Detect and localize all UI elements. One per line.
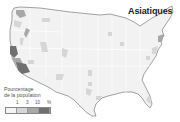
map-title: Asiatiques	[128, 6, 173, 16]
legend-swatch-gt10	[39, 108, 50, 113]
legend-tick-3: 3	[26, 100, 29, 105]
legend-swatch-3-10	[28, 108, 39, 113]
legend-title-line2: de la population	[4, 92, 41, 98]
legend-tick-10: 10	[35, 100, 40, 105]
legend-swatch-lt1	[6, 108, 17, 113]
legend-tick-percent: %	[47, 100, 51, 105]
legend-title: Pourcentage de la population	[4, 86, 41, 98]
legend-swatch-1-3	[17, 108, 28, 113]
legend-color-scale	[5, 107, 51, 114]
legend-tick-1: 1	[16, 100, 19, 105]
legend-ticks: 1 3 10 %	[4, 100, 50, 106]
